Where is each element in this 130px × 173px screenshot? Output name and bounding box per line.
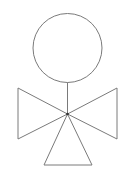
right-triangle <box>68 88 118 139</box>
left-triangle <box>18 88 68 139</box>
center-dot <box>66 113 69 116</box>
bottom-triangle <box>44 114 92 165</box>
head-circle <box>33 14 102 83</box>
figure-diagram <box>0 0 130 173</box>
